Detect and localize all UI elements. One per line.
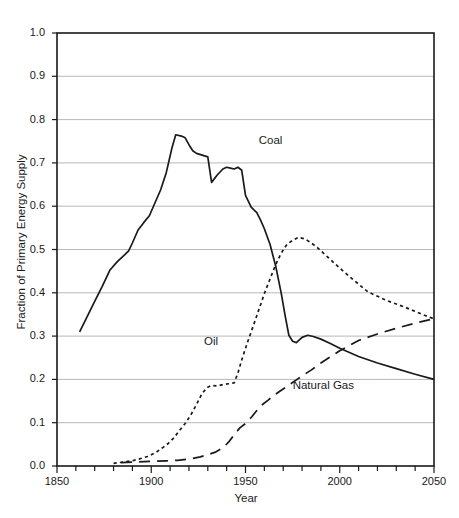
plot-canvas [0,0,459,518]
series-label-natural-gas: Natural Gas [293,379,354,391]
x-tick-label: 1900 [128,475,174,487]
series-label-oil: Oil [204,335,218,347]
series-line-oil [114,237,434,463]
y-tick-label: 0.6 [17,199,45,211]
y-tick-label: 0.0 [17,459,45,471]
y-tick-label: 0.2 [17,372,45,384]
series-line-natural-gas [121,319,434,463]
y-tick-label: 0.3 [17,329,45,341]
y-tick-label: 0.9 [17,69,45,81]
series-line-coal [80,135,434,380]
x-tick-label: 2050 [411,475,457,487]
x-tick-label: 1950 [223,475,269,487]
y-tick-label: 0.1 [17,416,45,428]
x-tick-label: 1850 [34,475,80,487]
series-label-coal: Coal [259,134,283,146]
energy-transition-chart: Fraction of Primary Energy Supply Year 0… [0,0,459,518]
y-tick-label: 0.7 [17,156,45,168]
y-tick-label: 0.8 [17,113,45,125]
x-tick-label: 2000 [317,475,363,487]
y-tick-label: 1.0 [17,26,45,38]
x-axis-title: Year [57,492,435,504]
y-tick-label: 0.4 [17,286,45,298]
y-tick-label: 0.5 [17,243,45,255]
